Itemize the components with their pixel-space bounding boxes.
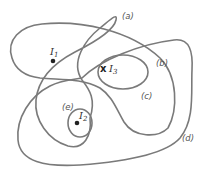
label-point-i3: I3 (108, 63, 118, 76)
label-region-b: (b) (156, 58, 168, 68)
label-region-c: (c) (141, 91, 152, 101)
set-diagram: (a) (b) (c) (d) (e) I1 I2 x I3 (0, 0, 203, 172)
point-i2-dot-icon (75, 121, 80, 126)
label-point-i1: I1 (49, 46, 58, 59)
label-region-d: (d) (182, 133, 194, 143)
point-i3-x-icon: x (100, 63, 107, 74)
label-region-e: (e) (62, 102, 74, 112)
point-i1-dot-icon (51, 59, 56, 64)
curve-a (36, 17, 116, 147)
curve-b (11, 23, 175, 135)
label-region-a: (a) (122, 11, 134, 21)
